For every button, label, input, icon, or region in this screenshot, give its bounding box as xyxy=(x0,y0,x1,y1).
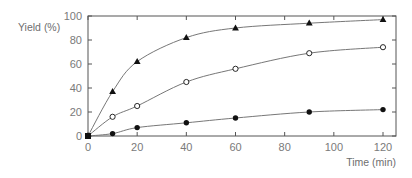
data-series xyxy=(85,16,386,139)
x-tick-label: 20 xyxy=(131,141,143,153)
filled-circle-marker xyxy=(110,131,115,136)
series-open-circle xyxy=(88,45,386,136)
y-axis-label: Yield (%) xyxy=(18,21,60,33)
y-tick-label: 60 xyxy=(70,58,82,70)
open-circle-marker xyxy=(380,45,385,50)
triangle-marker xyxy=(380,16,387,22)
filled-circle-marker xyxy=(380,107,385,112)
x-tick-label: 40 xyxy=(180,141,192,153)
triangle-marker xyxy=(109,88,116,94)
y-tick-label: 20 xyxy=(70,106,82,118)
x-tick-label: 80 xyxy=(279,141,291,153)
open-circle-marker xyxy=(307,51,312,56)
filled-circle-marker xyxy=(307,109,312,114)
series-filled-circle xyxy=(88,107,386,136)
x-tick-label: 0 xyxy=(85,141,91,153)
x-tick-label: 120 xyxy=(374,141,392,153)
x-tick-label: 60 xyxy=(229,141,241,153)
filled-circle-marker xyxy=(134,125,139,130)
y-tick-label: 80 xyxy=(70,34,82,46)
filled-circle-marker xyxy=(233,115,238,120)
plot-frame xyxy=(88,16,396,136)
open-circle-marker xyxy=(233,66,238,71)
series-line xyxy=(88,47,383,136)
x-tick-label: 100 xyxy=(325,141,343,153)
yield-vs-time-chart: 020406080100120020406080100 Yield (%) Ti… xyxy=(0,0,412,178)
triangle-marker xyxy=(134,58,141,64)
open-circle-marker xyxy=(135,103,140,108)
plot-border xyxy=(88,16,396,136)
open-circle-marker xyxy=(110,114,115,119)
open-circle-marker xyxy=(184,79,189,84)
axis-ticks xyxy=(88,16,396,136)
x-axis-label: Time (min) xyxy=(346,156,396,168)
y-tick-label: 100 xyxy=(64,10,82,22)
y-tick-label: 0 xyxy=(76,130,82,142)
y-tick-label: 40 xyxy=(70,82,82,94)
origin-marker xyxy=(85,133,91,139)
filled-circle-marker xyxy=(184,120,189,125)
